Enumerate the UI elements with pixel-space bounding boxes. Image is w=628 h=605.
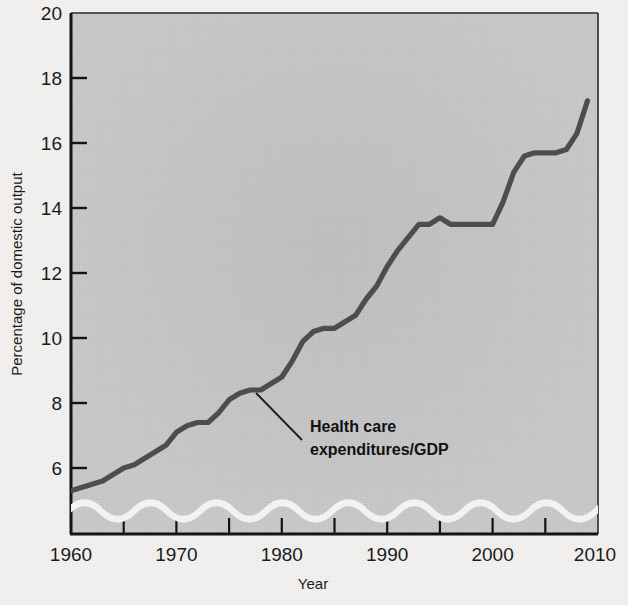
y-tick-label: 16: [41, 133, 62, 154]
x-tick-label: 1970: [155, 544, 197, 565]
x-axis-title: Year: [298, 575, 328, 592]
x-tick-label: 1990: [366, 544, 408, 565]
x-tick-label: 1960: [50, 544, 92, 565]
y-tick-label: 14: [41, 198, 63, 219]
x-tick-label: 2000: [471, 544, 513, 565]
y-tick-label: 6: [51, 458, 62, 479]
x-tick-labels: 1960 1970 1980 1990 2000 2010: [50, 544, 616, 565]
y-tick-label: 18: [41, 68, 62, 89]
y-tick-label: 12: [41, 263, 62, 284]
y-tick-labels: 20 18 16 14 12 10 8 6: [41, 3, 63, 479]
line-chart-svg: 20 18 16 14 12 10 8 6 1960 1970 1980 19: [0, 0, 628, 605]
x-tick-label: 2010: [574, 544, 616, 565]
y-tick-label: 8: [51, 393, 62, 414]
annotation-label-line1: Health care: [310, 418, 396, 435]
chart-figure: 20 18 16 14 12 10 8 6 1960 1970 1980 19: [0, 0, 628, 605]
x-tick-label: 1980: [261, 544, 303, 565]
annotation-label-line2: expenditures/GDP: [310, 441, 449, 458]
y-tick-label: 10: [41, 328, 62, 349]
y-axis-title: Percentage of domestic output: [8, 171, 25, 375]
y-tick-label: 20: [41, 3, 62, 24]
